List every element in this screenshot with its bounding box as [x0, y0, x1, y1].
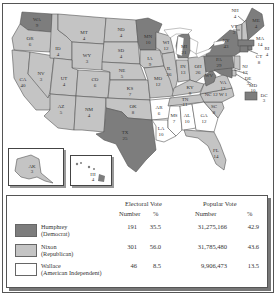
svg-text:NJ: NJ: [242, 64, 248, 69]
svg-text:NM: NM: [85, 107, 94, 112]
electoral-vote-header: Electoral Vote: [125, 200, 162, 207]
svg-text:ND: ND: [117, 27, 125, 32]
wallace-swatch: [15, 263, 37, 276]
svg-text:ID: ID: [55, 46, 61, 51]
svg-text:26: 26: [167, 72, 173, 77]
svg-text:UT: UT: [61, 76, 68, 81]
svg-text:NY: NY: [222, 38, 230, 43]
svg-text:FL: FL: [213, 148, 219, 153]
legend-row-nixon: Nixon (Republican): [15, 244, 73, 257]
svg-text:4: 4: [234, 14, 237, 19]
svg-text:12: 12: [164, 46, 170, 51]
party-name: (American Independent): [41, 270, 102, 277]
svg-text:21: 21: [182, 50, 188, 55]
pop-percent: 13.5: [243, 262, 259, 269]
popular-vote-header: Popular Vote: [203, 200, 237, 207]
party-name: (Democrat): [41, 231, 70, 238]
svg-text:40: 40: [21, 83, 27, 88]
svg-text:NV: NV: [37, 71, 45, 76]
humphrey-swatch: [15, 224, 37, 237]
svg-text:IN: IN: [180, 64, 186, 69]
svg-text:14: 14: [258, 42, 264, 47]
svg-text:12: 12: [221, 86, 227, 91]
legend-row-humphrey: Humphrey (Democrat): [15, 224, 70, 237]
svg-text:WV: WV: [205, 73, 214, 78]
svg-text:AL: AL: [184, 113, 191, 118]
svg-text:VA: VA: [220, 80, 227, 85]
svg-text:WA: WA: [33, 17, 41, 22]
state-DE: [232, 70, 236, 76]
svg-text:10: 10: [159, 132, 165, 137]
svg-text:OH: OH: [194, 64, 202, 69]
svg-text:SC: SC: [211, 104, 218, 109]
nixon-swatch: [15, 244, 37, 257]
ev-percent: 35.5: [145, 223, 161, 230]
svg-text:8: 8: [258, 60, 261, 65]
svg-text:CT: CT: [256, 54, 262, 59]
ev-percent: 56.0: [145, 243, 161, 250]
party-name: (Republican): [41, 251, 73, 258]
svg-text:26: 26: [196, 70, 202, 75]
state-RI: [248, 46, 252, 50]
svg-text:MT: MT: [80, 30, 88, 35]
svg-text:MS: MS: [170, 113, 177, 118]
svg-text:3: 3: [263, 98, 266, 103]
svg-text:TX: TX: [122, 130, 129, 135]
state-MA: [238, 40, 254, 46]
svg-text:MO: MO: [154, 76, 162, 81]
svg-text:10: 10: [251, 88, 257, 93]
ev-number: 301: [119, 243, 137, 250]
ev-number: 46: [119, 262, 137, 269]
state-OH: [188, 56, 206, 82]
svg-text:CA: CA: [20, 77, 27, 82]
pop-number: 31,275,166: [183, 223, 227, 230]
state-FL: [184, 130, 226, 170]
ev-percent-header: %: [153, 210, 158, 217]
legend-row-wallace: Wallace (American Independent): [15, 263, 102, 276]
svg-text:AR: AR: [156, 105, 164, 110]
svg-text:CO: CO: [92, 77, 99, 82]
svg-text:NH: NH: [231, 8, 239, 13]
results-legend: Electoral Vote Popular Vote Number % Num…: [6, 195, 268, 288]
svg-text:13: 13: [181, 70, 187, 75]
svg-text:NE: NE: [119, 68, 126, 73]
svg-text:VT: VT: [231, 24, 238, 29]
svg-text:12: 12: [156, 82, 162, 87]
svg-text:OK: OK: [129, 104, 137, 109]
svg-text:11: 11: [183, 102, 188, 107]
svg-text:14: 14: [214, 154, 220, 159]
svg-text:29: 29: [217, 63, 223, 68]
svg-text:MI: MI: [181, 44, 187, 49]
svg-text:IA: IA: [147, 56, 153, 61]
svg-text:MA: MA: [256, 36, 264, 41]
svg-text:OR: OR: [27, 36, 35, 41]
state-NJ: [234, 56, 240, 70]
alaska-inset: AK3: [8, 148, 64, 186]
svg-text:RI: RI: [265, 46, 270, 51]
svg-text:4: 4: [92, 177, 95, 182]
svg-text:KY: KY: [186, 85, 194, 90]
svg-text:43: 43: [224, 44, 230, 49]
svg-text:MN: MN: [144, 34, 152, 39]
svg-text:GA: GA: [200, 113, 208, 118]
ev-number: 191: [119, 223, 137, 230]
state-CT: [240, 46, 248, 52]
pop-number: 31,785,480: [183, 243, 227, 250]
svg-text:IL: IL: [167, 66, 172, 71]
svg-text:NC 12 W 1: NC 12 W 1: [205, 92, 228, 97]
svg-text:AZ: AZ: [58, 104, 65, 109]
ev-percent: 8.5: [145, 262, 161, 269]
svg-text:WY: WY: [83, 53, 92, 58]
svg-text:PA: PA: [216, 57, 222, 62]
pop-percent: 42.9: [243, 223, 259, 230]
svg-text:SD: SD: [118, 48, 125, 53]
svg-text:10: 10: [185, 119, 191, 124]
svg-text:WI: WI: [163, 40, 170, 45]
svg-text:17: 17: [243, 70, 249, 75]
svg-text:KS: KS: [127, 86, 134, 91]
pop-number-header: Number: [195, 210, 216, 217]
state-DC: [245, 92, 257, 100]
svg-text:ME: ME: [252, 18, 260, 23]
svg-text:25: 25: [123, 136, 129, 141]
ev-number-header: Number: [119, 210, 140, 217]
